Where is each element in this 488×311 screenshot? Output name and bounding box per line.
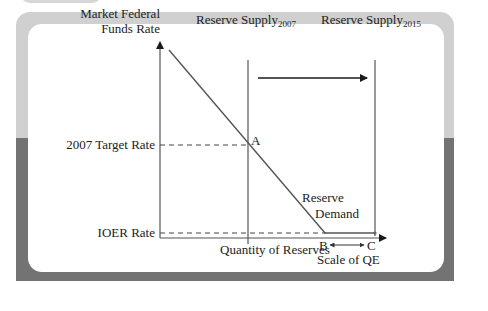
point-c-dot — [373, 231, 376, 234]
point-a-label: A — [251, 133, 260, 148]
supply-2007-label: Reserve Supply2007 — [196, 12, 296, 32]
supply-2015-label: Reserve Supply2015 — [321, 12, 421, 32]
demand-label-line1: Reserve — [302, 190, 344, 205]
point-b-label: B — [319, 238, 328, 253]
y-axis-label-line2: Funds Rate — [60, 21, 160, 36]
y-axis-label-line1: Market Federal — [60, 6, 160, 21]
reserve-market-diagram — [0, 0, 488, 311]
y-axis-label: Market Federal Funds Rate — [60, 6, 160, 36]
target-rate-label: 2007 Target Rate — [40, 137, 155, 152]
scale-of-qe-label: Scale of QE — [317, 252, 380, 267]
point-c-label: C — [367, 238, 376, 253]
x-axis-label: Quantity of Reserves — [220, 242, 330, 257]
ioer-rate-label: IOER Rate — [60, 225, 155, 240]
demand-label-line2: Demand — [315, 206, 359, 221]
